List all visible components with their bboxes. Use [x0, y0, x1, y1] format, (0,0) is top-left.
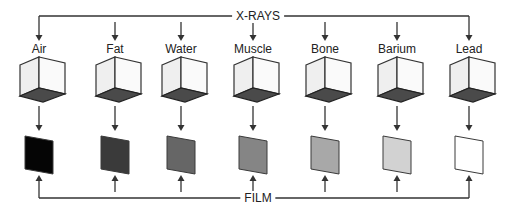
- material-label-water: Water: [146, 42, 216, 56]
- film-square-air: [25, 136, 53, 174]
- film-arrow-water-head: [178, 175, 185, 181]
- film-arrow-barium-head: [394, 175, 401, 181]
- xray-arrow-barium-head: [394, 35, 401, 41]
- transmit-arrow-muscle-head: [250, 125, 257, 131]
- film-arrow-air-head: [36, 175, 43, 181]
- film-label: FILM: [240, 191, 275, 205]
- transmit-arrow-fat-head: [112, 125, 119, 131]
- film-square-lead: [455, 136, 483, 174]
- material-label-barium: Barium: [362, 42, 432, 56]
- transmit-arrow-barium-head: [394, 125, 401, 131]
- xray-arrow-air-head: [36, 35, 43, 41]
- transmit-arrow-bone-head: [322, 125, 329, 131]
- film-square-water: [167, 136, 195, 174]
- material-label-air: Air: [4, 42, 74, 56]
- material-label-muscle: Muscle: [218, 42, 288, 56]
- material-label-bone: Bone: [290, 42, 360, 56]
- material-label-lead: Lead: [434, 42, 504, 56]
- xray-attenuation-diagram: X-RAYS FILM AirFatWaterMuscleBoneBariumL…: [0, 0, 516, 215]
- diagram-canvas: [0, 0, 516, 215]
- transmit-arrow-water-head: [178, 125, 185, 131]
- film-arrow-fat-head: [112, 175, 119, 181]
- xray-arrow-fat-head: [112, 35, 119, 41]
- xray-arrow-muscle-head: [250, 35, 257, 41]
- xray-arrow-lead-head: [466, 35, 473, 41]
- film-arrow-muscle-head: [250, 175, 257, 181]
- xray-arrow-water-head: [178, 35, 185, 41]
- film-square-muscle: [239, 136, 267, 174]
- film-square-barium: [383, 136, 411, 174]
- transmit-arrow-air-head: [36, 125, 43, 131]
- film-square-fat: [101, 136, 129, 174]
- xrays-label: X-RAYS: [232, 9, 284, 23]
- film-square-bone: [311, 136, 339, 174]
- film-arrow-lead-head: [466, 175, 473, 181]
- material-label-fat: Fat: [80, 42, 150, 56]
- film-arrow-bone-head: [322, 175, 329, 181]
- transmit-arrow-lead-head: [466, 125, 473, 131]
- xray-arrow-bone-head: [322, 35, 329, 41]
